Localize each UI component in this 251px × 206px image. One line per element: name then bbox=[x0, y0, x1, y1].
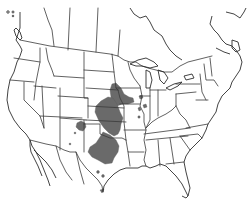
outlier-texas-dot-1 bbox=[97, 171, 100, 174]
maritimes bbox=[216, 40, 240, 54]
range-layer bbox=[69, 83, 147, 193]
outlier-new-mexico-dot-1 bbox=[74, 132, 76, 134]
us-canada-border bbox=[20, 40, 212, 72]
pacific-coastline bbox=[7, 12, 30, 140]
atlantic-coastline bbox=[184, 56, 242, 196]
lake-superior bbox=[130, 58, 158, 68]
outlier-illinois-2 bbox=[143, 104, 147, 108]
gulf-coastline bbox=[103, 164, 188, 198]
lake-ontario bbox=[184, 74, 194, 80]
island-nw-1 bbox=[7, 11, 9, 13]
canada-province-lines bbox=[44, 8, 120, 56]
canada-east-coast bbox=[210, 8, 246, 56]
outlier-colorado bbox=[76, 121, 86, 131]
lake-erie bbox=[166, 82, 182, 90]
outlier-new-mexico-dot-2 bbox=[69, 143, 71, 145]
outlier-texas-dot-2 bbox=[102, 175, 105, 178]
island-nw-3 bbox=[12, 15, 14, 17]
hudson-bay-shore bbox=[130, 8, 182, 60]
range-map bbox=[0, 0, 251, 206]
outlier-missouri bbox=[138, 116, 140, 118]
main-range-south bbox=[88, 132, 119, 164]
lake-michigan bbox=[146, 70, 152, 88]
island-nw-2 bbox=[12, 11, 14, 13]
